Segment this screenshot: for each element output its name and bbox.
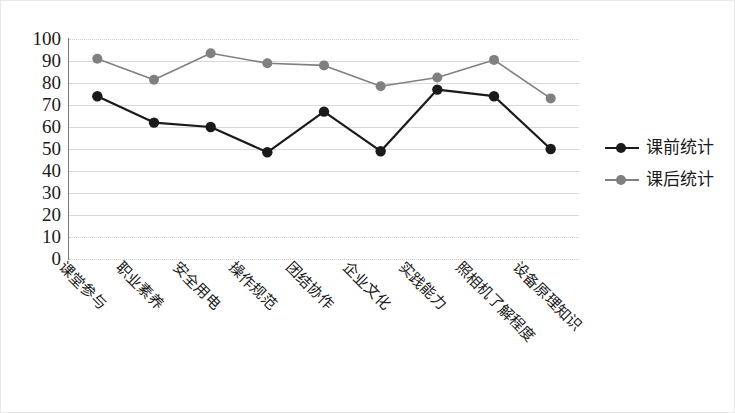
x-axis-label: 课堂参与 xyxy=(56,259,110,313)
data-point xyxy=(262,147,272,157)
data-point xyxy=(262,58,272,68)
y-tick-label: 70 xyxy=(3,95,61,114)
y-tick-label: 60 xyxy=(3,117,61,136)
data-point xyxy=(432,84,442,94)
data-point xyxy=(149,75,159,85)
data-point xyxy=(432,73,442,83)
data-point xyxy=(206,48,216,58)
y-tick-label: 80 xyxy=(3,73,61,92)
series-line-post xyxy=(97,53,550,98)
y-tick-label: 30 xyxy=(3,183,61,202)
chart-figure: 1009080706050403020100 课堂参与职业素养安全用电操作规范团… xyxy=(0,0,735,413)
y-tick-label: 0 xyxy=(3,249,61,268)
x-axis-label: 企业文化 xyxy=(339,259,393,313)
data-point xyxy=(319,60,329,70)
chart-legend: 课前统计课后统计 xyxy=(605,139,714,189)
y-tick-label: 90 xyxy=(3,51,61,70)
data-point xyxy=(376,81,386,91)
legend-label: 课后统计 xyxy=(646,171,714,189)
data-point xyxy=(546,93,556,103)
y-tick-label: 10 xyxy=(3,227,61,246)
x-axis-label: 安全用电 xyxy=(169,259,223,313)
plot-area xyxy=(69,39,579,259)
y-axis-tick-labels: 1009080706050403020100 xyxy=(1,1,61,413)
data-point xyxy=(92,54,102,64)
legend-label: 课前统计 xyxy=(646,139,714,157)
data-point xyxy=(205,122,215,132)
data-point xyxy=(149,117,159,127)
y-tick-label: 20 xyxy=(3,205,61,224)
y-tick-label: 50 xyxy=(3,139,61,158)
x-axis-label: 实践能力 xyxy=(396,259,450,313)
x-axis-label: 操作规范 xyxy=(226,259,280,313)
series-line-pre xyxy=(97,90,550,153)
legend-item[interactable]: 课后统计 xyxy=(605,171,714,189)
data-point xyxy=(92,91,102,101)
data-point xyxy=(489,91,499,101)
x-axis-label: 职业素养 xyxy=(113,259,167,313)
series-layer xyxy=(69,39,579,259)
y-tick-label: 40 xyxy=(3,161,61,180)
x-axis-label: 团结协作 xyxy=(283,259,337,313)
x-axis-category-labels: 课堂参与职业素养安全用电操作规范团结协作企业文化实践能力照相机了解程度设备原理知… xyxy=(69,259,579,379)
legend-marker-icon xyxy=(605,142,639,154)
legend-dot-icon xyxy=(616,175,626,185)
data-point xyxy=(489,55,499,65)
data-point xyxy=(319,106,329,116)
legend-dot-icon xyxy=(616,143,626,153)
legend-marker-icon xyxy=(605,174,639,186)
legend-item[interactable]: 课前统计 xyxy=(605,139,714,157)
y-tick-label: 100 xyxy=(3,29,61,48)
data-point xyxy=(545,144,555,154)
data-point xyxy=(375,146,385,156)
